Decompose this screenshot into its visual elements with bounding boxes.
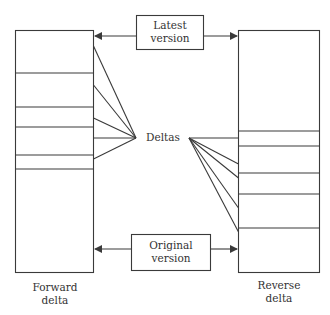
- latest-version-line2: version: [136, 32, 204, 45]
- delta-diagram: [0, 0, 330, 315]
- deltas-label: Deltas: [138, 131, 188, 144]
- forward-delta-pointers: [94, 46, 137, 159]
- latest-version-line1: Latest: [136, 19, 204, 32]
- original-version-line2: version: [131, 252, 211, 265]
- original-version-line1: Original: [131, 239, 211, 252]
- latest-version-label: Latest version: [136, 19, 204, 45]
- reverse-delta-pointers: [189, 138, 239, 232]
- reverse-delta-line1: Reverse: [238, 279, 320, 292]
- forward-delta-line2: delta: [15, 294, 95, 307]
- original-version-label: Original version: [131, 239, 211, 265]
- forward-delta-column: [16, 31, 94, 273]
- forward-delta-label: Forward delta: [15, 281, 95, 307]
- reverse-delta-line2: delta: [238, 292, 320, 305]
- reverse-delta-label: Reverse delta: [238, 279, 320, 305]
- reverse-delta-column: [239, 31, 320, 273]
- forward-delta-line1: Forward: [15, 281, 95, 294]
